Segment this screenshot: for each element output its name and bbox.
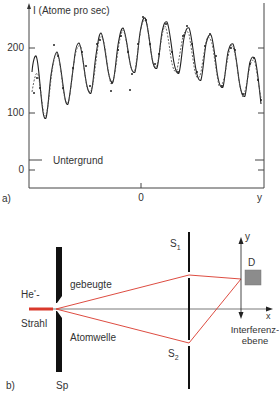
plane-label-1: Interferenz- xyxy=(231,324,279,335)
background-annotation: Untergrund xyxy=(53,155,103,166)
s1-label: S1 xyxy=(170,238,181,251)
x-axis-label: y xyxy=(257,192,262,203)
panel-label-b: b) xyxy=(6,380,15,391)
strahl-label: Strahl xyxy=(21,318,47,329)
theory-curve xyxy=(32,18,261,119)
detector xyxy=(245,270,261,285)
y-tick-label-200: 200 xyxy=(7,42,24,53)
y-up-arrow-icon xyxy=(239,237,244,244)
x-tick-label-0: 0 xyxy=(138,192,144,203)
plane-label-2: ebene xyxy=(242,335,268,346)
figure: I (Atome pro sec) 200 100 0 Untergrund 0… xyxy=(0,0,279,396)
lower-wave-label: Atomwelle xyxy=(70,332,117,343)
y-axis-arrow-icon xyxy=(27,3,31,9)
detector-label: D xyxy=(248,257,255,268)
diagram-y-label: y xyxy=(245,231,250,242)
he-label: He*- xyxy=(21,289,39,300)
y-tick-label-0: 0 xyxy=(18,164,24,175)
diagram-x-label: x xyxy=(266,311,271,321)
data-curve xyxy=(32,20,261,116)
panel-label-a: a) xyxy=(2,193,11,204)
slit-label: Sp xyxy=(56,380,69,391)
diagram-panel-b: x y D He*- Strahl gebeugte Atomwelle Sp … xyxy=(6,231,279,391)
y-axis-label: I (Atome pro sec) xyxy=(33,5,110,16)
chart-panel-a: I (Atome pro sec) 200 100 0 Untergrund 0… xyxy=(2,3,264,204)
s2-label: S2 xyxy=(168,348,179,361)
upper-wave-label: gebeugte xyxy=(70,279,112,290)
slit-lower-jaw xyxy=(56,311,62,372)
y-tick-label-100: 100 xyxy=(7,107,24,118)
y-down-arrow-icon xyxy=(239,312,244,319)
slit-upper-jaw xyxy=(56,247,62,303)
